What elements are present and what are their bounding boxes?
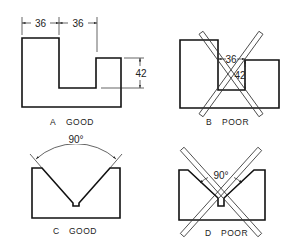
dim-width-notch: 36 [72,18,84,29]
dim-angle-d: 90° [213,170,228,181]
caption-word-c: GOOD [69,226,97,236]
caption-letter-b: B [206,117,212,127]
caption-word-b: POOR [222,117,249,127]
figure-a: 36 36 42 A GOOD [22,17,147,127]
caption-letter-c: C [53,226,60,236]
dim-height-step: 42 [135,68,147,79]
figure-c: 90° C GOOD [30,134,122,236]
caption-letter-d: D [205,228,212,238]
poor-cross-mark [180,147,261,237]
caption-letter-a: A [50,117,56,127]
caption-word-a: GOOD [66,117,94,127]
extension-line [110,154,122,168]
figure-b: 36 42 B POOR [180,31,279,127]
dim-width-left: 36 [35,18,47,29]
dim-angle-c: 90° [68,134,83,145]
caption-word-d: POOR [221,228,248,238]
dimensioning-diagram: 36 36 42 A GOOD 36 42 B POOR [0,0,288,246]
poor-cross-mark [199,31,263,116]
extension-line [30,154,42,168]
part-outline-c [32,168,120,218]
angle-arc [36,144,116,159]
part-outline-a [22,38,121,107]
figure-d: 90° D POOR [179,147,265,238]
